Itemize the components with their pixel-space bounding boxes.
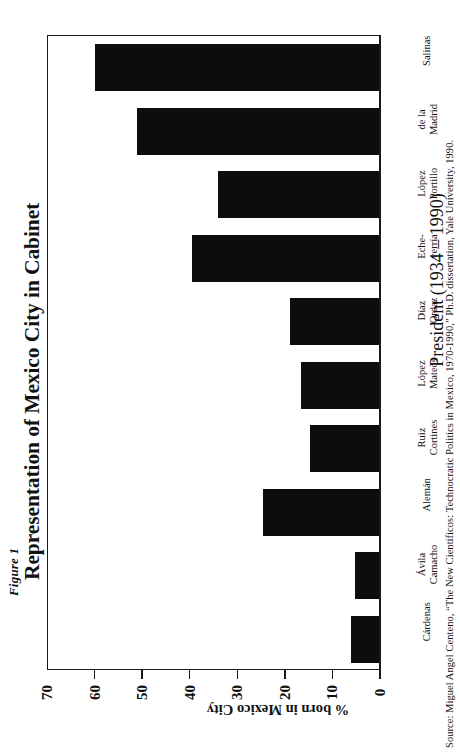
- bar-row: [48, 44, 380, 91]
- bar-row: [48, 235, 380, 282]
- bar-row: [48, 298, 380, 345]
- bar-row: [48, 171, 380, 218]
- bar-d-az-ordaz[interactable]: [290, 298, 380, 345]
- bar-alem-n[interactable]: [263, 489, 380, 536]
- tick-label-60: 60: [86, 673, 103, 713]
- bar-c-rdenas[interactable]: [351, 616, 380, 663]
- plot-area: [47, 35, 380, 670]
- bar--vila-camacho[interactable]: [355, 552, 380, 599]
- bar-row: [48, 489, 380, 536]
- value-axis-baseline: [379, 35, 381, 671]
- bar-salinas[interactable]: [95, 44, 380, 91]
- category-label-line: Salinas: [421, 8, 433, 94]
- bar-eche-verr-a[interactable]: [192, 235, 380, 282]
- chart-title: Representation of Mexico City in Cabinet: [20, 20, 45, 580]
- bar-row: [48, 425, 380, 472]
- bar-de-la-madrid[interactable]: [137, 108, 380, 155]
- tick-label-50: 50: [134, 673, 151, 713]
- bar-row: [48, 552, 380, 599]
- tick-label-70: 70: [39, 673, 56, 713]
- bar-l-pez-mateos[interactable]: [301, 362, 380, 409]
- bar-row: [48, 616, 380, 663]
- bar-row: [48, 108, 380, 155]
- bar-l-pez-portillo[interactable]: [218, 171, 380, 218]
- source-note: Source: Miguel Angel Centeno, “The New C…: [444, 8, 455, 748]
- bar-ruiz-cortines[interactable]: [310, 425, 380, 472]
- value-axis-title: % born in Mexico City: [158, 701, 398, 718]
- bar-row: [48, 362, 380, 409]
- category-label-text: Salinas: [421, 8, 433, 94]
